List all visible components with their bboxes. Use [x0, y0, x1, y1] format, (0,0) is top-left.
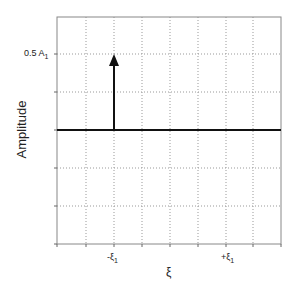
arrow-head-icon	[109, 54, 119, 66]
x-tick-label-neg: -ξ1	[107, 252, 118, 264]
y-axis-label: Amplitude	[14, 95, 29, 165]
x-tick-label-pos: +ξ1	[221, 252, 234, 264]
x-axis-label: ξ	[166, 265, 171, 279]
chart-canvas	[0, 0, 296, 291]
y-tick-label: 0.5 A1	[24, 48, 48, 60]
ticks	[54, 54, 281, 247]
